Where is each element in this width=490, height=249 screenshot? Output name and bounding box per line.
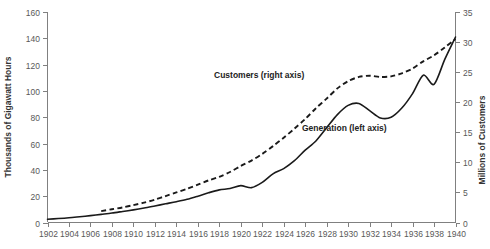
tick-label: 1934 [382, 229, 401, 239]
chart-background [0, 0, 490, 249]
tick-label: 10 [463, 158, 473, 168]
annotation-generation: Generation (left axis) [302, 123, 387, 133]
tick-label: 80 [31, 113, 41, 123]
right-axis-title: Millions of Customers [477, 95, 487, 184]
tick-label: 1916 [189, 229, 208, 239]
tick-label: 1930 [339, 229, 358, 239]
left-axis-title: Thousands of Gigawatt Hours [3, 56, 13, 177]
tick-label: 25 [463, 68, 473, 78]
tick-label: 1906 [81, 229, 100, 239]
tick-label: 1904 [60, 229, 79, 239]
tick-label: 0 [463, 219, 468, 229]
tick-label: 1918 [210, 229, 229, 239]
tick-label: 120 [26, 61, 40, 71]
tick-label: 100 [26, 87, 40, 97]
annotation-customers: Customers (right axis) [214, 70, 304, 80]
tick-label: 40 [31, 166, 41, 176]
tick-label: 30 [463, 38, 473, 48]
tick-label: 1940 [447, 229, 466, 239]
tick-label: 1938 [425, 229, 444, 239]
tick-label: 1902 [39, 229, 58, 239]
tick-label: 0 [35, 219, 40, 229]
tick-label: 60 [31, 140, 41, 150]
tick-label: 160 [26, 8, 40, 18]
tick-label: 1922 [253, 229, 272, 239]
tick-label: 140 [26, 34, 40, 44]
tick-label: 1920 [232, 229, 251, 239]
line-chart: 020406080100120140160 Thousands of Gigaw… [0, 0, 490, 249]
tick-label: 1926 [296, 229, 315, 239]
tick-label: 1924 [275, 229, 294, 239]
tick-label: 1908 [103, 229, 122, 239]
tick-label: 1928 [318, 229, 337, 239]
tick-label: 1910 [124, 229, 143, 239]
tick-label: 1914 [167, 229, 186, 239]
tick-label: 20 [463, 98, 473, 108]
tick-label: 1932 [361, 229, 380, 239]
tick-label: 15 [463, 128, 473, 138]
tick-label: 1936 [404, 229, 423, 239]
tick-label: 20 [31, 192, 41, 202]
tick-label: 5 [463, 188, 468, 198]
chart-container: 020406080100120140160 Thousands of Gigaw… [0, 0, 490, 249]
tick-label: 1912 [146, 229, 165, 239]
tick-label: 35 [463, 8, 473, 18]
